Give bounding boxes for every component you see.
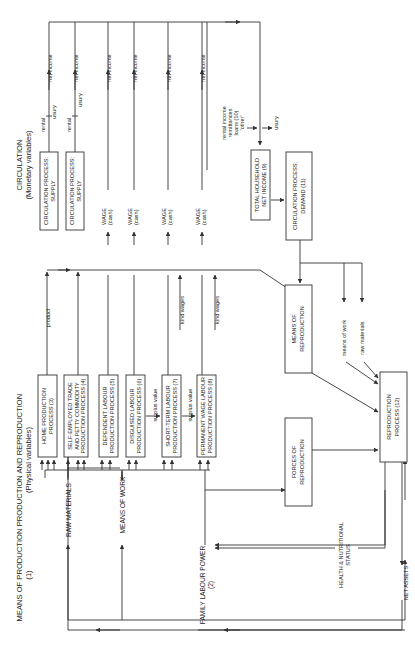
svg-text:PERMANENT WAGE LABOUR: PERMANENT WAGE LABOUR <box>200 377 206 455</box>
svg-text:(cash): (cash) <box>201 209 207 225</box>
header-means-of-production: MEANS OF PRODUCTION (1) <box>15 529 33 622</box>
production-process-self-employed: SELF-EMPLOYED TRADE AND PETTY COMMODITY … <box>64 375 88 457</box>
product-label: product <box>45 308 51 327</box>
svg-text:'other': 'other' <box>239 116 245 131</box>
svg-text:AND PETTY COMMODITY: AND PETTY COMMODITY <box>74 382 80 450</box>
svg-text:PRODUCTION PROCESS (7): PRODUCTION PROCESS (7) <box>172 378 178 453</box>
svg-text:MEANS OF: MEANS OF <box>291 314 297 344</box>
svg-text:CIRCULATION PROCESS:: CIRCULATION PROCESS: <box>292 162 298 230</box>
svg-text:TOTAL HOUSEHOLD: TOTAL HOUSEHOLD <box>254 158 260 212</box>
net-income-label-3: net income <box>106 54 112 81</box>
reproduction-process-box: REPRODUCTION PROCESS (12) <box>380 372 407 462</box>
health-status-label: HEALTH & NUTRITIONAL STATUS <box>338 522 351 588</box>
svg-text:HEALTH & NUTRITIONAL: HEALTH & NUTRITIONAL <box>338 522 344 588</box>
net-income-label-6: net income <box>200 54 206 81</box>
net-income-label-1: net income <box>47 54 53 81</box>
header-production-reproduction: PRODUCTION AND REPRODUCTION (Physical va… <box>15 394 33 526</box>
svg-text:SELF-EMPLOYED TRADE: SELF-EMPLOYED TRADE <box>67 382 73 450</box>
circulation-supply-box-2: CIRCULATION PROCESS: SUPPLY <box>66 152 84 230</box>
raw-materials-flow-label: raw materials <box>359 321 365 354</box>
svg-text:(Physical variables): (Physical variables) <box>24 427 33 493</box>
production-process-disguised: DISGUISED LABOUR PRODUCTION PROCESS (6) <box>126 375 145 457</box>
svg-text:PRODUCTION PROCESS (8): PRODUCTION PROCESS (8) <box>207 378 213 453</box>
net-income-label-2: net income <box>73 54 79 81</box>
svg-text:STATUS: STATUS <box>345 544 351 566</box>
other-income-label: rental income remittances loans (10) 'ot… <box>221 106 245 140</box>
circulation-supply-box-1: CIRCULATION PROCESS: SUPPLY <box>40 152 58 230</box>
svg-text:DEMAND (11): DEMAND (11) <box>300 178 306 213</box>
svg-text:CIRCULATION: CIRCULATION <box>15 140 24 191</box>
svg-text:SUPPLY: SUPPLY <box>76 180 82 202</box>
surplus-value-label-1: surplus value <box>152 389 158 422</box>
production-process-short-term: SHORT-TERM LABOUR PRODUCTION PROCESS (7) <box>162 375 181 457</box>
svg-text:SHORT-TERM LABOUR: SHORT-TERM LABOUR <box>165 385 171 446</box>
kind-wages-label-1: kind wages <box>179 296 185 324</box>
production-process-permanent-wage: PERMANENT WAGE LABOUR PRODUCTION PROCESS… <box>197 375 216 457</box>
wage-label-3: WAGE (cash) <box>161 208 173 225</box>
net-income-label-5: net income <box>166 54 172 81</box>
svg-text:(Monetary variables): (Monetary variables) <box>24 130 33 200</box>
production-process-home: HOME PRODUCTION PROCESS (3) <box>38 375 57 457</box>
circulation-demand-box: CIRCULATION PROCESS: DEMAND (11) <box>286 152 312 240</box>
wage-label-4: WAGE (cash) <box>195 208 207 225</box>
wage-label-1: WAGE (cash) <box>101 208 113 225</box>
svg-text:(1): (1) <box>24 570 33 580</box>
usury-label-1: usury <box>51 105 57 119</box>
svg-text:REPRODUCTION: REPRODUCTION <box>386 394 392 439</box>
rental-label-1: rental <box>40 118 46 132</box>
surplus-value-label-2: surplus value <box>187 389 193 422</box>
svg-text:DEPENDENT LABOUR: DEPENDENT LABOUR <box>102 387 108 446</box>
raw-materials-label: RAW MATERIALS <box>65 482 72 536</box>
means-of-reproduction-box: MEANS OF REPRODUCTION <box>285 285 312 373</box>
svg-text:CIRCULATION PROCESS:: CIRCULATION PROCESS: <box>69 157 75 225</box>
net-income-label-4: net income <box>132 54 138 81</box>
usury-label-2: usury <box>77 93 83 107</box>
svg-text:PROCESS (3): PROCESS (3) <box>48 398 54 434</box>
svg-text:PRODUCTION AND REPRODUCTION: PRODUCTION AND REPRODUCTION <box>15 394 24 526</box>
svg-text:MEANS OF PRODUCTION: MEANS OF PRODUCTION <box>15 529 24 622</box>
input-bus <box>45 470 210 478</box>
svg-text:PRODUCTION PROCESS (5): PRODUCTION PROCESS (5) <box>109 378 115 453</box>
svg-text:(cash): (cash) <box>107 209 113 225</box>
svg-text:FORCES OF: FORCES OF <box>291 445 297 478</box>
svg-text:PROCESS (12): PROCESS (12) <box>394 397 400 436</box>
svg-text:CIRCULATION PROCESS:: CIRCULATION PROCESS: <box>43 157 49 225</box>
header-circulation: CIRCULATION (Monetary variables) <box>15 130 33 200</box>
input-arrows <box>42 460 208 470</box>
kind-wages-label-2: kind wages <box>214 296 220 324</box>
svg-text:(2): (2) <box>207 581 215 589</box>
family-labour-power-label: FAMILY LABOUR POWER <box>199 546 206 625</box>
usury-label-3: usury <box>273 116 279 130</box>
household-net-income-box: TOTAL HOUSEHOLD NET INCOME (9) <box>251 150 270 220</box>
svg-text:PRODUCTION PROCESS (6): PRODUCTION PROCESS (6) <box>136 378 142 453</box>
svg-text:(cash): (cash) <box>167 209 173 225</box>
household-economy-flow-diagram: MEANS OF PRODUCTION (1) PRODUCTION AND R… <box>0 0 415 653</box>
svg-text:REPRODUCTION: REPRODUCTION <box>299 439 305 484</box>
rental-label-2: rental <box>66 118 72 132</box>
svg-text:(cash): (cash) <box>133 209 139 225</box>
production-process-dependent: DEPENDENT LABOUR PRODUCTION PROCESS (5) <box>99 375 118 457</box>
svg-text:HOME PRODUCTION: HOME PRODUCTION <box>41 388 47 444</box>
means-of-work-flow-label: means of work <box>341 320 347 357</box>
svg-text:DISGUISED LABOUR: DISGUISED LABOUR <box>129 388 135 443</box>
svg-text:SUPPLY: SUPPLY <box>50 180 56 202</box>
forces-of-reproduction-box: FORCES OF REPRODUCTION <box>285 418 312 506</box>
svg-text:NET INCOME (9): NET INCOME (9) <box>261 163 267 207</box>
svg-text:REPRODUCTION: REPRODUCTION <box>299 306 305 351</box>
wage-label-2: WAGE (cash) <box>127 208 139 225</box>
product-to-means-line <box>47 270 290 290</box>
means-of-work-label: MEANS OF WORK <box>119 476 126 533</box>
net-assets-label: NET ASSETS <box>403 566 409 601</box>
svg-text:PRODUCTION PROCESS (4): PRODUCTION PROCESS (4) <box>80 378 86 453</box>
